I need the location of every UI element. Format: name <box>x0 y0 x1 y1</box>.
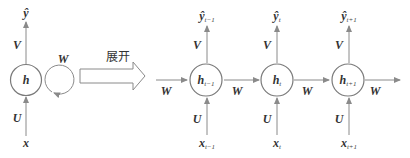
step-t: ŷt V ht U xt <box>261 9 293 151</box>
input-label: xt+1 <box>340 136 357 151</box>
folded-rnn: ŷ V h U x W <box>11 6 74 150</box>
step-t-plus-1: ŷt+1 V ht+1 U xt+1 <box>332 9 364 151</box>
v-label: V <box>335 38 344 52</box>
folded-output-label: ŷ <box>21 6 29 20</box>
input-label: xt−1 <box>198 136 215 151</box>
folded-w-label: W <box>58 52 70 66</box>
input-label: xt <box>272 136 282 151</box>
folded-u-label: U <box>13 111 23 125</box>
w-label: W <box>232 84 244 98</box>
u-label: U <box>335 112 345 126</box>
u-label: U <box>263 112 273 126</box>
incoming-w-label: W <box>161 84 173 98</box>
v-label: V <box>193 38 202 52</box>
u-label: U <box>193 112 203 126</box>
v-label: V <box>263 38 272 52</box>
unfold-label: 展开 <box>106 50 130 64</box>
unfold-arrow: 展开 <box>80 50 145 90</box>
folded-v-label: V <box>13 38 22 52</box>
output-label: ŷt−1 <box>197 9 215 24</box>
output-label: ŷt+1 <box>339 9 357 24</box>
folded-hidden-label: h <box>23 73 30 87</box>
w-label: W <box>302 84 314 98</box>
rnn-diagram: ŷ V h U x W 展开 W ŷt−1 V ht−1 U xt−1 <box>0 0 410 158</box>
output-label: ŷt <box>271 9 281 24</box>
folded-input-label: x <box>22 136 29 150</box>
outgoing-w-label: W <box>370 84 382 98</box>
step-t-minus-1: ŷt−1 V ht−1 U xt−1 <box>190 9 222 151</box>
recurrent-loop-icon <box>45 65 74 94</box>
hollow-arrow-icon <box>80 62 145 90</box>
unfolded-rnn: W ŷt−1 V ht−1 U xt−1 W ŷt V ht U xt W <box>156 9 400 151</box>
